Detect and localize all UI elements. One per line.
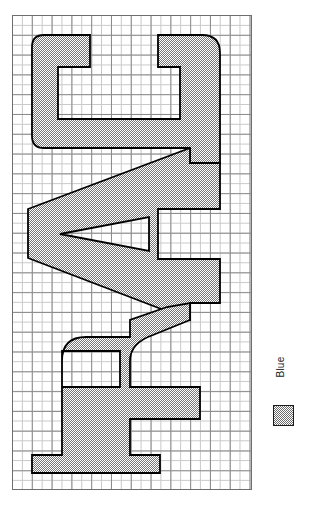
letter-u-shape bbox=[32, 35, 220, 163]
legend-swatch-blue bbox=[273, 405, 294, 426]
letters-svg bbox=[12, 15, 252, 490]
letter-a-shape bbox=[28, 148, 220, 320]
letter-r-shape bbox=[32, 303, 200, 473]
figure-canvas: Blue bbox=[0, 0, 311, 512]
letter-shape-layer bbox=[12, 15, 252, 490]
legend-entry-label: Blue bbox=[274, 345, 288, 389]
plot-panel bbox=[12, 15, 252, 490]
legend: Blue bbox=[268, 358, 302, 448]
legend-swatch-pattern bbox=[274, 406, 293, 425]
